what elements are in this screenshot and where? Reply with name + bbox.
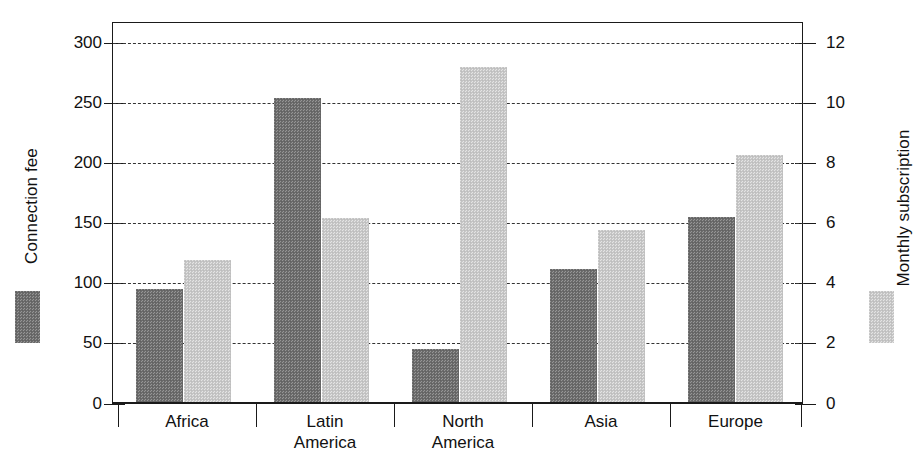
right-tick-label-8: 8 [826,153,866,173]
left-tick-label-100: 100 [42,273,102,293]
left-tick-label-50: 50 [42,333,102,353]
plot-area [112,22,803,404]
bar-connection-fee-north-america [412,349,459,402]
left-tick-label-0: 0 [42,394,102,414]
left-axis-title: Connection fee [22,96,42,316]
left-tick-label-300: 300 [42,33,102,53]
bar-connection-fee-africa [136,289,183,402]
category-label-africa-line-0: Africa [118,411,256,432]
right-tick-mark-0 [795,404,816,405]
category-label-latin-america: Latin America [256,411,394,453]
legend-swatch-monthly-subscription [869,291,894,343]
right-tick-label-10: 10 [826,93,866,113]
category-label-europe-line-0: Europe [670,411,801,432]
category-label-asia-line-0: Asia [532,411,670,432]
right-tick-label-12: 12 [826,33,866,53]
right-tick-label-0: 0 [826,394,866,414]
bar-connection-fee-asia [550,269,597,402]
left-tick-label-150: 150 [42,213,102,233]
gridline-250 [113,103,804,104]
gridline-200 [113,163,804,164]
left-tick-label-200: 200 [42,153,102,173]
bar-monthly-subscription-africa [184,260,231,402]
category-label-north-america-line-1: America [394,432,532,453]
category-label-asia: Asia [532,411,670,432]
bar-monthly-subscription-europe [736,155,783,402]
gridline-300 [113,43,804,44]
legend-swatch-connection-fee [15,291,40,343]
category-label-africa: Africa [118,411,256,432]
right-axis-title: Monthly subscription [894,88,914,328]
left-tick-label-250: 250 [42,93,102,113]
right-tick-label-2: 2 [826,333,866,353]
left-tick-mark-0 [104,404,125,405]
category-label-europe: Europe [670,411,801,432]
bar-connection-fee-latin-america [274,98,321,402]
right-tick-label-4: 4 [826,273,866,293]
grouped-bar-chart: Connection fee Monthly subscription 300 … [0,0,915,467]
category-label-latin-america-line-1: America [256,432,394,453]
bar-connection-fee-europe [688,217,735,402]
category-separator-5 [801,404,802,427]
bar-monthly-subscription-latin-america [322,218,369,402]
category-label-latin-america-line-0: Latin [256,411,394,432]
right-tick-label-6: 6 [826,213,866,233]
category-label-north-america-line-0: North [394,411,532,432]
bar-monthly-subscription-north-america [460,67,507,402]
category-label-north-america: North America [394,411,532,453]
bar-monthly-subscription-asia [598,230,645,402]
